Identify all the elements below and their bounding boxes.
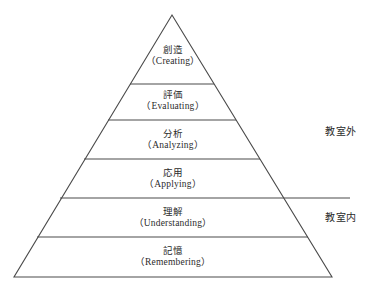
tier-label-understanding: 理解 （Understanding） [134,207,213,228]
tier-label-evaluating-en: （Evaluating） [141,101,205,112]
tier-label-creating-jp: 創造 [146,45,201,56]
annotation-inside-classroom: 教室内 [325,209,357,224]
tier-label-understanding-en: （Understanding） [134,218,213,229]
tier-label-analyzing: 分析 （Analyzing） [142,129,204,150]
tier-label-remembering: 記憶 （Remembering） [135,246,211,267]
tier-label-remembering-en: （Remembering） [135,257,211,268]
tier-label-creating-en: （Creating） [146,56,201,67]
tier-label-evaluating: 評価 （Evaluating） [141,90,205,111]
figure-root: 創造 （Creating） 評価 （Evaluating） 分析 （Analyz… [0,0,376,291]
tier-label-applying-jp: 応用 [144,168,202,179]
tier-label-applying-en: （Applying） [144,179,202,190]
tier-label-evaluating-jp: 評価 [141,90,205,101]
tier-label-creating: 創造 （Creating） [146,45,201,66]
tier-label-analyzing-jp: 分析 [142,129,204,140]
tier-label-applying: 応用 （Applying） [144,168,202,189]
annotation-outside-classroom: 教室外 [325,123,357,138]
tier-label-remembering-jp: 記憶 [135,246,211,257]
tier-label-analyzing-en: （Analyzing） [142,140,204,151]
tier-label-understanding-jp: 理解 [134,207,213,218]
